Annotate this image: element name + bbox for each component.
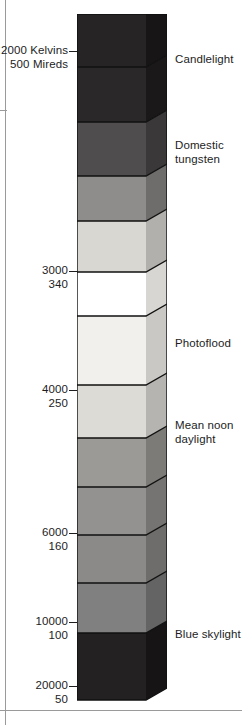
- column-facet: [77, 67, 146, 122]
- column-facet: [77, 583, 146, 633]
- scale-tick-mired: 500 Mireds: [0, 58, 68, 72]
- light-source-label: Mean noon daylight: [175, 419, 233, 446]
- scale-tick-label: 6000160: [0, 526, 68, 553]
- scale-tick-kelvin: 10000: [0, 615, 68, 629]
- scale-tick-mired: 160: [0, 540, 68, 554]
- column-facet: [77, 316, 146, 385]
- column-facet: [77, 272, 146, 316]
- colour-temperature-column-svg: [77, 14, 167, 702]
- column-facet: [77, 535, 146, 583]
- scale-tick-label: 2000 Kelvins500 Mireds: [0, 44, 68, 71]
- scale-tick-kelvin: 4000: [0, 383, 68, 397]
- colour-temperature-column: [77, 14, 167, 702]
- light-source-label: Domestic tungsten: [175, 139, 224, 166]
- scale-tick-kelvin: 20000: [0, 679, 68, 693]
- scale-tick-mired: 50: [0, 693, 68, 707]
- column-facet: [77, 176, 146, 221]
- column-facet: [77, 14, 146, 67]
- scale-tick-label: 4000250: [0, 383, 68, 410]
- light-source-label: Candlelight: [175, 53, 234, 67]
- scale-tick-mark: [69, 533, 77, 534]
- page-rule-bottom: [0, 710, 242, 711]
- scale-tick-mired: 250: [0, 397, 68, 411]
- column-facet: [77, 633, 146, 700]
- column-facet: [77, 487, 146, 535]
- scale-tick-mark: [69, 51, 77, 52]
- scale-tick-label: 2000050: [0, 679, 68, 706]
- column-facet: [77, 438, 146, 487]
- column-facet: [146, 304, 167, 385]
- scale-tick-kelvin: 6000: [0, 526, 68, 540]
- column-facet: [77, 221, 146, 272]
- scale-tick-mired: 100: [0, 629, 68, 643]
- scale-tick-label: 3000340: [0, 264, 68, 291]
- scale-tick-mark: [69, 271, 77, 272]
- scale-tick-mark: [69, 622, 77, 623]
- scale-tick-mark: [69, 686, 77, 687]
- scale-tick-kelvin: 3000: [0, 264, 68, 278]
- column-facet: [146, 621, 167, 700]
- column-facet: [77, 385, 146, 438]
- scale-tick-kelvin: 2000 Kelvins: [0, 44, 68, 58]
- light-source-label: Blue skylight: [175, 628, 241, 642]
- page-tick-left: [0, 110, 7, 111]
- column-facet: [77, 122, 146, 176]
- scale-tick-mired: 340: [0, 278, 68, 292]
- scale-tick-mark: [69, 390, 77, 391]
- light-source-label: Photoflood: [175, 337, 231, 351]
- scale-tick-label: 10000100: [0, 615, 68, 642]
